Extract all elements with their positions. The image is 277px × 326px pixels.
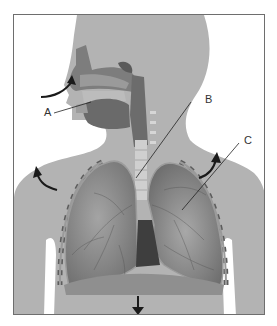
diagram-frame: A B C [13, 14, 265, 315]
label-a: A [44, 107, 51, 118]
oral-cavity [76, 91, 130, 129]
label-b: B [205, 94, 212, 105]
label-c: C [244, 135, 252, 146]
respiratory-illustration [14, 15, 265, 315]
